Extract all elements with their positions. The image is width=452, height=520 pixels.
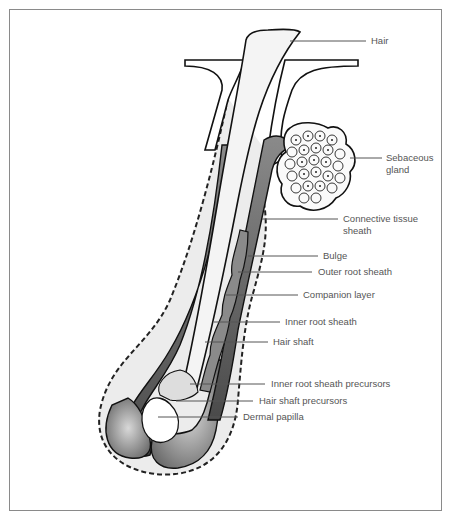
label-inner-root-sheath-precursors: Inner root sheath precursors [271,378,390,390]
hair-follicle-diagram [0,0,452,520]
label-sebaceous-gland: Sebaceous gland [386,152,438,176]
label-connective-tissue-sheath: Connective tissue sheath [343,213,443,237]
label-hair-shaft: Hair shaft [273,336,314,348]
label-hair: Hair [371,35,388,47]
label-inner-root-sheath: Inner root sheath [285,316,357,328]
label-outer-root-sheath: Outer root sheath [318,266,392,278]
label-hair-shaft-precursors: Hair shaft precursors [259,395,347,407]
label-bulge: Bulge [323,250,347,262]
label-dermal-papilla: Dermal papilla [243,411,304,423]
sebaceous-gland [277,123,355,210]
label-companion-layer: Companion layer [303,289,375,301]
